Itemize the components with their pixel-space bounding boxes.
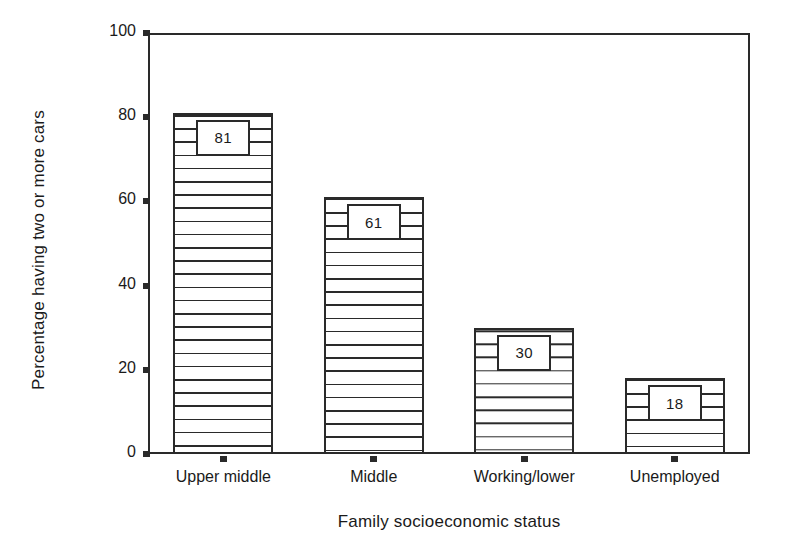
x-category-label: Working/lower <box>474 468 575 486</box>
y-tick-mark <box>143 283 150 289</box>
y-tick-mark <box>143 30 150 36</box>
x-tick-mark <box>370 456 377 462</box>
y-tick-label: 20 <box>118 359 136 377</box>
x-tick-mark <box>521 456 528 462</box>
y-tick-label: 60 <box>118 190 136 208</box>
y-tick-label: 40 <box>118 275 136 293</box>
y-tick-label: 0 <box>127 443 136 461</box>
y-tick-label: 80 <box>118 106 136 124</box>
bar-value-label: 81 <box>196 120 250 156</box>
x-tick-mark <box>220 456 227 462</box>
y-tick-label: 100 <box>109 22 136 40</box>
x-axis-title: Family socioeconomic status <box>148 512 750 532</box>
x-tick-mark <box>671 456 678 462</box>
bar <box>173 113 273 454</box>
x-category-label: Unemployed <box>630 468 720 486</box>
bar-value-label: 61 <box>347 204 401 240</box>
bar-value-label: 30 <box>497 335 551 371</box>
y-tick-mark <box>143 198 150 204</box>
bar-value-label: 18 <box>648 385 702 421</box>
y-tick-mark <box>143 114 150 120</box>
y-tick-mark <box>143 451 150 457</box>
y-axis-title: Percentage having two or more cars <box>22 30 56 470</box>
bar-chart: Percentage having two or more cars 02040… <box>0 0 790 550</box>
x-category-label: Middle <box>350 468 397 486</box>
x-category-label: Upper middle <box>176 468 271 486</box>
y-tick-mark <box>143 367 150 373</box>
